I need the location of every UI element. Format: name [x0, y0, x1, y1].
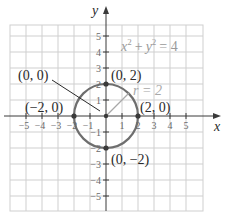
y-tick-label: −2	[90, 143, 101, 154]
x-tick-label: 1	[120, 120, 125, 131]
circle-graph: −5 −4 −3 −2 −1 1 2 3 4 5 5 4 3 2 1 −1 −2…	[0, 0, 229, 216]
y-tick-label: 3	[96, 63, 101, 74]
x-axis-label: x	[213, 119, 221, 134]
y-tick-label: 1	[96, 95, 101, 106]
point-label-neg2-0: (−2, 0)	[25, 100, 64, 116]
point-0-neg2	[103, 145, 108, 150]
point-label-0-2: (0, 2)	[111, 68, 142, 84]
point-label-0-neg2: (0, −2)	[111, 152, 150, 168]
x-tick-label: 4	[168, 120, 173, 131]
x-tick-label: −3	[51, 120, 62, 131]
point-origin	[104, 114, 108, 118]
point-label-origin: (0, 0)	[18, 68, 49, 84]
y-tick-label: −3	[90, 159, 101, 170]
x-tick-label: −5	[19, 120, 30, 131]
x-tick-label: 3	[152, 120, 157, 131]
y-tick-label: −1	[90, 127, 101, 138]
point-neg2-0	[71, 113, 76, 118]
x-tick-label: −2	[67, 120, 78, 131]
x-tick-label: 2	[136, 120, 141, 131]
x-tick-labels: −5 −4 −3 −2 −1 1 2 3 4 5	[19, 120, 189, 131]
y-axis-label: y	[90, 3, 99, 18]
y-tick-label: −5	[90, 191, 101, 202]
y-tick-label: 4	[96, 47, 101, 58]
x-tick-label: −4	[35, 120, 46, 131]
point-0-2	[103, 81, 108, 86]
y-tick-label: −4	[90, 175, 101, 186]
y-tick-label: 2	[96, 79, 101, 90]
y-tick-label: 5	[96, 31, 101, 42]
y-axis-arrow-icon	[103, 6, 109, 14]
radius-label: r = 2	[133, 83, 162, 98]
radius-line	[106, 93, 129, 116]
point-label-2-0: (2, 0)	[140, 100, 171, 116]
x-tick-label: 5	[184, 120, 189, 131]
equation-label: x2+y2= 4	[120, 37, 178, 54]
